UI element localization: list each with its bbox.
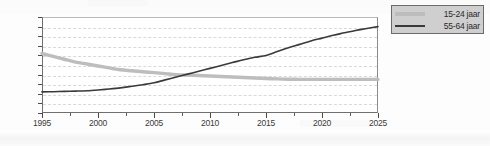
x-axis-minor-tick bbox=[182, 113, 183, 116]
series-lines bbox=[42, 17, 378, 113]
legend-item-1: 55-64 jaar bbox=[395, 20, 480, 32]
x-axis-tick-label: 1995 bbox=[25, 118, 59, 128]
legend-swatch-line-icon-0 bbox=[395, 8, 425, 20]
legend-item-0: 15-24 jaar bbox=[395, 8, 480, 20]
legend-label-0: 15-24 jaar bbox=[428, 8, 480, 20]
paper-band-bottom bbox=[0, 131, 490, 146]
x-axis-minor-tick bbox=[70, 113, 71, 116]
x-axis-tick-label: 2020 bbox=[305, 118, 339, 128]
legend-swatch-line-icon-1 bbox=[395, 20, 425, 32]
x-axis-tick-label: 2010 bbox=[193, 118, 227, 128]
x-axis-tick-label: 2015 bbox=[249, 118, 283, 128]
x-axis-minor-tick bbox=[294, 113, 295, 116]
x-axis-minor-tick bbox=[350, 113, 351, 116]
chart-legend: 15-24 jaar 55-64 jaar bbox=[391, 5, 484, 34]
x-axis-tick-label: 2025 bbox=[361, 118, 395, 128]
series-line-1 bbox=[42, 27, 378, 92]
chart-figure: 1415161718192021222324 19952000200520102… bbox=[0, 0, 490, 146]
x-axis-tick-label: 2000 bbox=[81, 118, 115, 128]
x-axis-tick-label: 2005 bbox=[137, 118, 171, 128]
legend-label-1: 55-64 jaar bbox=[428, 20, 480, 32]
series-line-0 bbox=[42, 53, 378, 79]
x-axis-minor-tick bbox=[126, 113, 127, 116]
line-chart: 1415161718192021222324 19952000200520102… bbox=[0, 0, 392, 136]
x-axis-minor-tick bbox=[238, 113, 239, 116]
